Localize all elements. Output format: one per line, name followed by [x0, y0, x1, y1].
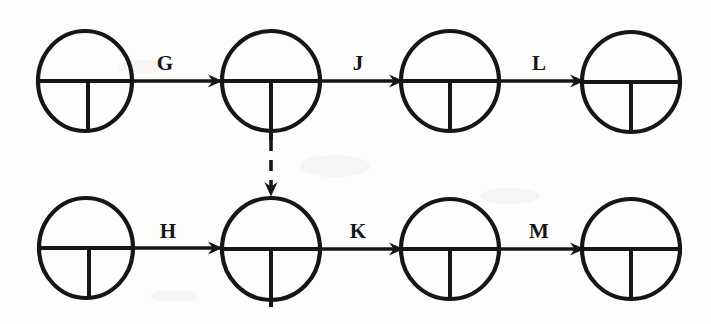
- edge-label-G: G: [157, 51, 173, 75]
- edge-label-L: L: [532, 51, 546, 75]
- event-node-6[interactable]: [222, 198, 320, 307]
- network-diagram-canvas: G J L H K M: [0, 0, 711, 324]
- event-node-4[interactable]: [582, 32, 680, 132]
- edge-label-H: H: [160, 219, 176, 243]
- edge-label-M: M: [529, 219, 549, 243]
- edge-label-J: J: [353, 51, 364, 75]
- edge-label-K: K: [350, 219, 367, 243]
- event-node-8[interactable]: [582, 199, 680, 299]
- event-node-3[interactable]: [401, 31, 499, 131]
- event-node-7[interactable]: [401, 199, 499, 299]
- event-node-5[interactable]: [39, 198, 133, 298]
- event-node-2[interactable]: [222, 31, 320, 140]
- diagram-svg: G J L H K M: [0, 0, 711, 324]
- event-node-1[interactable]: [38, 31, 132, 131]
